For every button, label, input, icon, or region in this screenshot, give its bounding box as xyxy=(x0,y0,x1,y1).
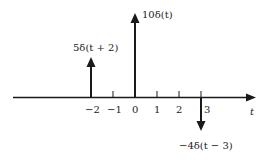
axis-label: t xyxy=(250,106,255,117)
down-arrow-icon xyxy=(197,121,206,131)
tick-label: 1 xyxy=(154,104,160,115)
tick-label: −1 xyxy=(107,104,122,115)
tick-label: 0 xyxy=(132,104,138,115)
tick-label: −2 xyxy=(85,104,100,115)
tick-label: 3 xyxy=(204,104,210,115)
axis-arrowhead-icon xyxy=(246,94,256,102)
up-arrow-icon xyxy=(131,13,140,23)
impulse-diagram: t −2 −1 0 1 2 3 5δ(t + 2) 10δ(t) −4δ(t −… xyxy=(0,0,268,163)
impulse-label-minus2: 5δ(t + 2) xyxy=(73,42,118,53)
diagram-svg: t −2 −1 0 1 2 3 5δ(t + 2) 10δ(t) −4δ(t −… xyxy=(0,0,268,163)
impulse-label-0: 10δ(t) xyxy=(142,9,173,20)
up-arrow-icon xyxy=(87,57,96,67)
tick-label: 2 xyxy=(176,104,182,115)
impulse-label-3: −4δ(t − 3) xyxy=(179,140,233,151)
